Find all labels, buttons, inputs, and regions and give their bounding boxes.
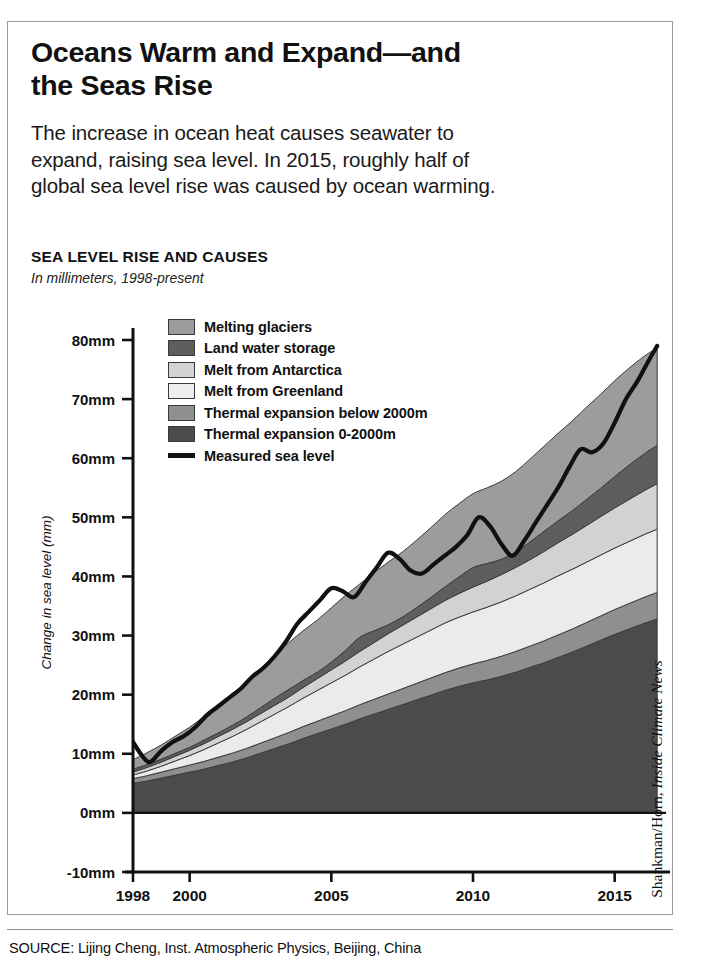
chart-subtitle: In millimeters, 1998-present	[31, 270, 204, 286]
legend-color-swatch	[168, 362, 195, 378]
legend-item-label: Melt from Greenland	[204, 383, 343, 399]
legend-item[interactable]: Thermal expansion 0-2000m	[168, 424, 428, 446]
legend-color-swatch	[168, 426, 195, 442]
legend-color-swatch	[168, 405, 195, 421]
panel-frame-right-edge	[672, 21, 673, 915]
legend-item[interactable]: Melting glaciers	[168, 316, 428, 338]
legend-color-swatch	[168, 340, 195, 356]
legend-item-label: Thermal expansion 0-2000m	[204, 426, 396, 442]
legend-item-label: Thermal expansion below 2000m	[204, 405, 428, 421]
legend-item[interactable]: Melt from Greenland	[168, 381, 428, 403]
legend-item[interactable]: Melt from Antarctica	[168, 359, 428, 381]
legend-color-swatch	[168, 319, 195, 335]
credit-publication: Inside Climate News	[648, 660, 665, 788]
legend-item-label: Measured sea level	[204, 448, 334, 464]
legend-item-label: Melting glaciers	[204, 319, 312, 335]
legend-item-label: Melt from Antarctica	[204, 362, 342, 378]
infographic-page: Oceans Warm and Expand—and the Seas Rise…	[0, 0, 721, 976]
page-deck: The increase in ocean heat causes seawat…	[31, 120, 511, 200]
footer-divider	[7, 929, 673, 930]
chart-legend: Melting glaciersLand water storageMelt f…	[168, 316, 428, 467]
legend-item-label: Land water storage	[204, 340, 335, 356]
legend-item[interactable]: Measured sea level	[168, 445, 428, 467]
credit-note: Shankman/Horn, Inside Climate News	[648, 629, 666, 929]
chart-title: SEA LEVEL RISE AND CAUSES	[31, 248, 268, 266]
legend-item[interactable]: Land water storage	[168, 338, 428, 360]
y-axis-title: Change in sea level (mm)	[39, 516, 54, 670]
source-note: SOURCE: Lijing Cheng, Inst. Atmospheric …	[9, 940, 421, 956]
legend-color-swatch	[168, 383, 195, 399]
legend-line-swatch	[168, 453, 195, 458]
page-title: Oceans Warm and Expand—and the Seas Rise	[31, 36, 501, 102]
legend-item[interactable]: Thermal expansion below 2000m	[168, 402, 428, 424]
credit-author: Shankman/Horn,	[648, 788, 665, 897]
